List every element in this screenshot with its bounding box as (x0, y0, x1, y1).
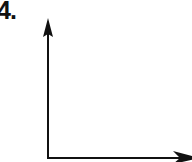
x-axis-arrowhead-icon (173, 151, 192, 162)
y-axis (43, 18, 53, 159)
coordinate-axes (0, 0, 192, 162)
x-axis (47, 151, 192, 162)
